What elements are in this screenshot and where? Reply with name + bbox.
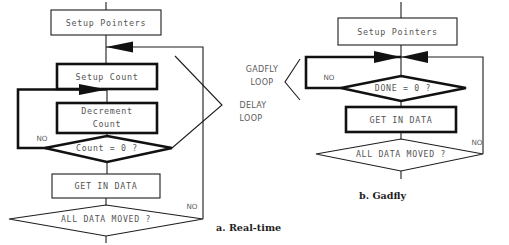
gadfly-loop-bracket xyxy=(285,59,300,100)
middle-loop-labels: GADFLY LOOP DELAY LOOP xyxy=(239,65,278,123)
right-get-in-data-label: GET IN DATA xyxy=(369,115,432,125)
left-count-no-label: NO xyxy=(36,134,47,143)
right-flowchart: Setup Pointers DONE = 0 ? NO GET IN DATA… xyxy=(285,2,483,201)
delay-loop-label-line2: LOOP xyxy=(240,114,263,123)
left-caption: a. Real-time xyxy=(216,222,281,233)
right-setup-pointers-label: Setup Pointers xyxy=(357,27,437,37)
left-decrement-count-label-line2: Count xyxy=(93,119,122,129)
flowchart-figure: Setup Pointers Setup Count Decrement Cou… xyxy=(0,0,509,245)
left-decrement-count-label-line1: Decrement xyxy=(81,106,133,116)
right-caption: b. Gadfly xyxy=(359,190,406,201)
delay-loop-label-line1: DELAY xyxy=(239,101,266,110)
right-gadfly-loop-arrowhead xyxy=(374,51,401,63)
left-all-data-moved-label: ALL DATA MOVED ? xyxy=(61,214,151,224)
left-all-data-no-label: NO xyxy=(186,202,197,211)
left-setup-pointers-label: Setup Pointers xyxy=(66,18,146,28)
right-done-zero-label: DONE = 0 ? xyxy=(375,83,431,93)
right-done-no-label: NO xyxy=(323,73,334,82)
left-setup-count-label: Setup Count xyxy=(75,72,138,82)
left-delay-loop-bracket xyxy=(172,56,222,148)
gadfly-loop-label-line2: LOOP xyxy=(251,78,274,87)
gadfly-loop-label-line1: GADFLY xyxy=(246,65,279,74)
right-all-data-no-label: NO xyxy=(471,138,482,147)
left-get-in-data-label: GET IN DATA xyxy=(74,181,137,191)
left-count-zero-label: Count = 0 ? xyxy=(76,143,138,153)
right-outer-return-arrowhead xyxy=(401,51,428,63)
flowchart-svg: Setup Pointers Setup Count Decrement Cou… xyxy=(0,0,509,245)
left-outer-return-arrowhead xyxy=(106,42,133,53)
left-flowchart: Setup Pointers Setup Count Decrement Cou… xyxy=(9,2,281,243)
right-all-data-moved-label: ALL DATA MOVED ? xyxy=(356,149,446,159)
